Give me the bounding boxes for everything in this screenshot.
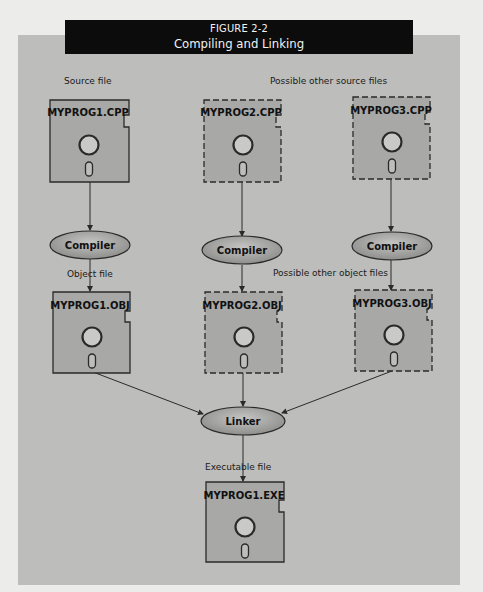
object-file-disk-1: MYPROG1.OBJ bbox=[50, 292, 130, 373]
source-file-disk-1: MYPROG1.CPP bbox=[47, 100, 129, 182]
label-other-source-files: Possible other source files bbox=[270, 76, 387, 86]
disk-filename: MYPROG1.OBJ bbox=[50, 300, 130, 311]
source-file-disk-3: MYPROG3.CPP bbox=[350, 97, 432, 179]
label-executable-file: Executable file bbox=[205, 462, 272, 472]
disk-filename: MYPROG3.CPP bbox=[350, 105, 432, 116]
compiler-node-2: Compiler bbox=[202, 236, 282, 264]
object-file-disk-2: MYPROG2.OBJ bbox=[202, 292, 282, 373]
compiler-node-3: Compiler bbox=[352, 232, 432, 260]
disk-filename: MYPROG3.OBJ bbox=[352, 298, 432, 309]
linker-node: Linker bbox=[201, 407, 285, 435]
label-other-object-files: Possible other object files bbox=[273, 268, 388, 278]
label-source-file: Source file bbox=[64, 76, 112, 86]
compiler-label: Compiler bbox=[65, 240, 115, 251]
compiler-label: Compiler bbox=[367, 241, 417, 252]
compiler-node-1: Compiler bbox=[50, 231, 130, 259]
disk-filename: MYPROG2.CPP bbox=[200, 107, 282, 118]
disk-filename: MYPROG1.EXE bbox=[203, 490, 284, 501]
disk-filename: MYPROG1.CPP bbox=[47, 107, 129, 118]
disk-filename: MYPROG2.OBJ bbox=[202, 300, 282, 311]
compile-link-diagram: Source file Possible other source files … bbox=[0, 0, 483, 592]
object-file-disk-3: MYPROG3.OBJ bbox=[352, 290, 432, 371]
compiler-label: Compiler bbox=[217, 245, 267, 256]
executable-file-disk: MYPROG1.EXE bbox=[203, 482, 284, 562]
linker-label: Linker bbox=[225, 416, 260, 427]
source-file-disk-2: MYPROG2.CPP bbox=[200, 100, 282, 182]
